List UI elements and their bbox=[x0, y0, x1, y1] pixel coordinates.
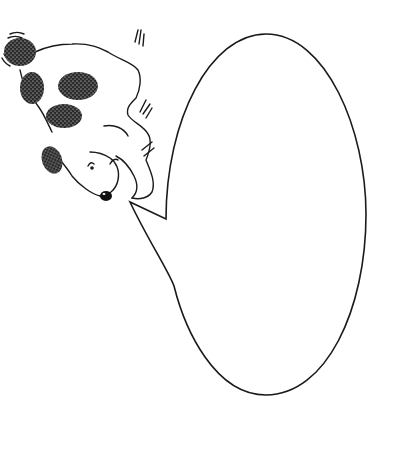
dog-spots bbox=[4, 38, 98, 177]
tail-spot bbox=[4, 38, 36, 66]
dog-eye bbox=[90, 166, 94, 170]
shoulder-spot bbox=[46, 104, 82, 128]
ear-spot bbox=[38, 143, 66, 176]
dog-nose bbox=[100, 191, 112, 201]
back-spot bbox=[58, 72, 98, 100]
dog-face bbox=[90, 166, 112, 201]
hip-spot bbox=[20, 72, 44, 104]
speech-bubble-text bbox=[190, 120, 340, 320]
